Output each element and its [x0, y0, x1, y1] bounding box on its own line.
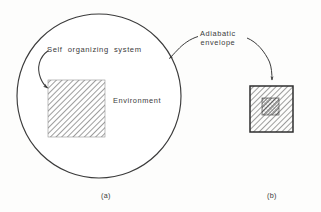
label-adiabatic-envelope: Adiabatic envelope	[200, 29, 236, 48]
label-adiabatic-envelope-line2: envelope	[200, 38, 236, 47]
adiabatic-leader-left-arrow	[170, 37, 199, 59]
panel-b-group	[250, 86, 293, 132]
label-environment: Environment	[113, 97, 161, 105]
diagram-canvas	[0, 0, 321, 212]
self-organizing-system-square-a	[48, 80, 105, 137]
label-self-organizing-system: Self organizing system	[47, 46, 142, 55]
caption-panel-b: (b)	[267, 191, 277, 200]
adiabatic-leader-right-arrow	[247, 38, 272, 80]
label-adiabatic-envelope-line1: Adiabatic	[200, 29, 236, 38]
figure-container: Self organizing system Environment Adiab…	[0, 0, 321, 212]
self-organizing-system-square-b-crosshatch	[262, 98, 279, 115]
caption-panel-a: (a)	[101, 191, 111, 200]
